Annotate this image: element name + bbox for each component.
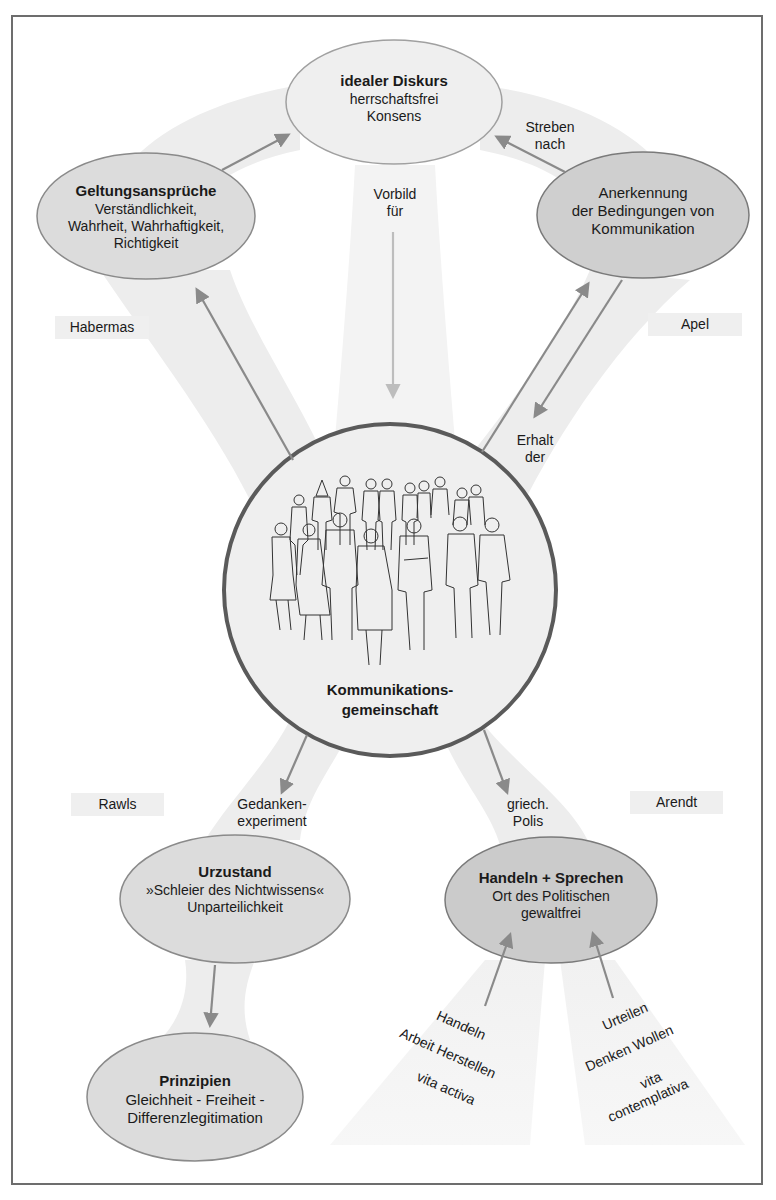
node-line: Unparteilichkeit bbox=[187, 899, 283, 916]
author-tag-rawls: Rawls bbox=[71, 793, 164, 816]
node-title: idealer Diskurs bbox=[340, 71, 448, 90]
edge-label-erhalt: Erhalt der bbox=[500, 432, 570, 466]
node-geltungsansprueche: Geltungsansprüche Verständlichkeit, Wahr… bbox=[37, 174, 255, 258]
author-tag-apel: Apel bbox=[648, 313, 742, 336]
node-line: Konsens bbox=[367, 108, 421, 125]
center-title-line1: Kommunikations- bbox=[327, 680, 454, 699]
edge-label-gedanken: Gedanken- experiment bbox=[222, 796, 322, 830]
node-line: »Schleier des Nichtwissens« bbox=[146, 882, 324, 899]
node-line: Kommunikation bbox=[591, 220, 694, 238]
node-title: Geltungsansprüche bbox=[76, 181, 217, 200]
node-line: herrschaftsfrei bbox=[350, 91, 439, 108]
node-title: Handeln + Sprechen bbox=[479, 868, 624, 887]
edge-label-vorbild: Vorbild für bbox=[360, 186, 430, 220]
node-urzustand: Urzustand »Schleier des Nichtwissens« Un… bbox=[120, 858, 350, 920]
center-node-kommunikationsgemeinschaft: Kommunikations- gemeinschaft bbox=[290, 678, 490, 722]
author-tag-habermas: Habermas bbox=[55, 316, 149, 339]
vita-contemplativa-band bbox=[560, 960, 745, 1145]
node-line: gewaltfrei bbox=[521, 905, 581, 922]
node-anerkennung: Anerkennung der Bedingungen von Kommunik… bbox=[537, 182, 749, 240]
node-idealer-diskurs: idealer Diskurs herrschaftsfrei Konsens bbox=[286, 58, 502, 138]
center-title-line2: gemeinschaft bbox=[342, 700, 439, 719]
node-prinzipien: Prinzipien Gleichheit - Freiheit - Diffe… bbox=[87, 1068, 303, 1130]
node-line: Differenzlegitimation bbox=[127, 1109, 263, 1127]
edge-label-streben: Streben nach bbox=[515, 119, 585, 153]
node-line: Verständlichkeit, bbox=[95, 201, 197, 218]
node-line: Gleichheit - Freiheit - bbox=[125, 1091, 264, 1109]
node-line: Anerkennung bbox=[598, 184, 687, 202]
node-line: Ort des Politischen bbox=[492, 888, 610, 905]
node-handeln-sprechen: Handeln + Sprechen Ort des Politischen g… bbox=[445, 864, 657, 926]
node-line: Richtigkeit bbox=[114, 235, 179, 252]
node-title: Prinzipien bbox=[159, 1071, 231, 1090]
edge-label-polis: griech. Polis bbox=[495, 796, 561, 830]
node-line: Wahrheit, Wahrhaftigkeit, bbox=[68, 218, 224, 235]
author-tag-arendt: Arendt bbox=[630, 791, 723, 814]
node-title: Urzustand bbox=[198, 862, 271, 881]
node-line: der Bedingungen von bbox=[572, 202, 715, 220]
